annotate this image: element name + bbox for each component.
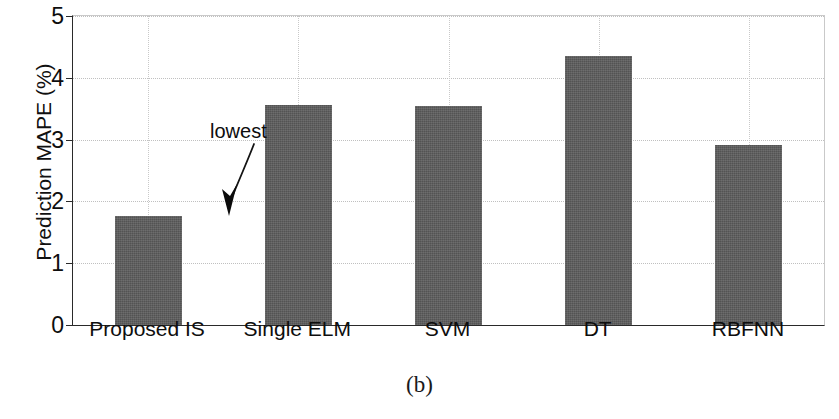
y-tick-label: 1 <box>51 252 64 275</box>
y-tick-label: 3 <box>51 128 64 151</box>
y-tick-mark <box>66 140 73 141</box>
y-tick-label: 4 <box>51 66 64 89</box>
figure-caption: (b) <box>0 372 839 398</box>
x-tick-label: DT <box>584 318 612 339</box>
y-tick-mark <box>66 16 73 17</box>
bar-svm <box>415 106 482 325</box>
x-tick-label: Proposed IS <box>89 318 205 339</box>
x-tick-label: RBFNN <box>712 318 784 339</box>
y-tick-mark <box>66 201 73 202</box>
y-tick-label: 5 <box>51 5 64 28</box>
bar-proposed-is <box>115 216 182 325</box>
figure-panel-b: Prediction MAPE (%) 012345 lowest Propos… <box>0 0 839 419</box>
x-tick-label: SVM <box>425 318 471 339</box>
y-tick-mark <box>66 78 73 79</box>
y-tick-label: 0 <box>51 314 64 337</box>
annotation-lowest-arrow-icon <box>213 140 277 216</box>
bar-rbfnn <box>715 145 782 325</box>
bar-dt <box>565 56 632 325</box>
y-tick-mark <box>66 325 73 326</box>
x-tick-label: Single ELM <box>244 318 351 339</box>
y-tick-label: 2 <box>51 190 64 213</box>
y-tick-mark <box>66 263 73 264</box>
plot-area: 012345 lowest <box>72 15 825 326</box>
